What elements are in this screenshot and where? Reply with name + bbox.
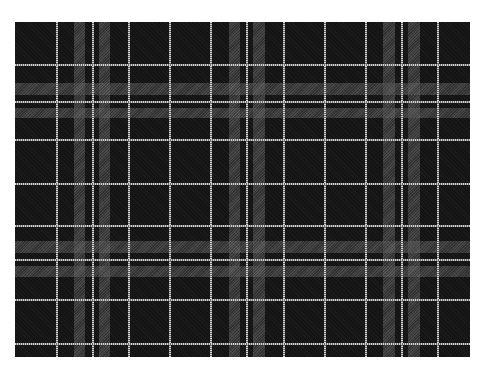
vertical-line bbox=[283, 22, 285, 357]
vertical-band bbox=[408, 22, 420, 357]
vertical-line bbox=[246, 22, 248, 357]
vertical-line bbox=[210, 22, 212, 357]
vertical-line bbox=[365, 22, 367, 357]
vertical-band bbox=[99, 22, 110, 357]
horizontal-line bbox=[15, 139, 470, 141]
horizontal-line bbox=[15, 299, 470, 301]
vertical-line bbox=[128, 22, 130, 357]
horizontal-line bbox=[15, 64, 470, 66]
horizontal-line bbox=[15, 343, 470, 345]
vertical-line bbox=[169, 22, 171, 357]
vertical-band bbox=[74, 22, 85, 357]
plaid-fabric bbox=[15, 22, 470, 357]
vertical-line bbox=[324, 22, 326, 357]
horizontal-line bbox=[15, 259, 470, 261]
vertical-band bbox=[253, 22, 265, 357]
horizontal-line bbox=[15, 225, 470, 227]
vertical-line bbox=[92, 22, 94, 357]
vertical-line bbox=[437, 22, 439, 357]
vertical-band bbox=[229, 22, 240, 357]
horizontal-line bbox=[15, 101, 470, 103]
horizontal-line bbox=[15, 183, 470, 185]
vertical-band bbox=[383, 22, 395, 357]
vertical-line bbox=[401, 22, 403, 357]
vertical-line bbox=[56, 22, 58, 357]
